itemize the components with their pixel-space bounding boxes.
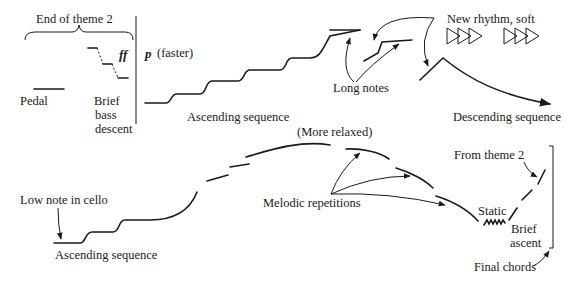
- brief-ascent-line1: Brief: [511, 222, 538, 236]
- ascending-label-top: Ascending sequence: [187, 110, 290, 124]
- final-chords-label: Final chords: [474, 260, 536, 274]
- brief-ascent-line2: ascent: [510, 236, 542, 250]
- fragmented-line: [207, 144, 330, 181]
- long-notes-group: Long notes: [330, 30, 412, 95]
- bass-descent-line3: descent: [95, 122, 133, 136]
- dynamic-p: p: [144, 46, 152, 61]
- new-rhythm-group: New rhythm, soft: [374, 12, 539, 66]
- melodic-repetitions-group: Melodic repetitions: [263, 149, 478, 221]
- from-theme-label: From theme 2: [454, 148, 524, 162]
- bass-descent-line2: bass: [95, 108, 117, 122]
- long-notes-label: Long notes: [333, 81, 389, 95]
- ascending-sequence-line-top: [145, 30, 360, 103]
- bass-descent-line1: Brief: [94, 94, 121, 108]
- triangle-rhythm-icon: [447, 28, 539, 44]
- static-zigzag: [484, 220, 505, 225]
- descending-label: Descending sequence: [453, 110, 561, 124]
- ascending-label-bottom: Ascending sequence: [55, 248, 158, 262]
- end-of-theme-section: End of theme 2 Pedal ff Brief bass desce…: [20, 12, 133, 136]
- form-diagram: End of theme 2 Pedal ff Brief bass desce…: [0, 0, 565, 283]
- end-of-theme-label: End of theme 2: [36, 12, 113, 26]
- dynamic-ff: ff: [119, 47, 129, 62]
- final-chords-bracket: [549, 146, 553, 248]
- tempo-label: (faster): [157, 46, 193, 60]
- melodic-repetitions-label: Melodic repetitions: [263, 196, 361, 210]
- brace: [25, 25, 133, 40]
- ending-group: Static Brief ascent From theme 2 Final c…: [454, 146, 553, 274]
- low-note-arrow: [58, 208, 61, 239]
- static-label: Static: [478, 204, 507, 218]
- low-note-label: Low note in cello: [20, 193, 108, 207]
- new-rhythm-label: New rhythm, soft: [447, 12, 535, 26]
- more-relaxed-label: (More relaxed): [297, 125, 372, 139]
- descending-sequence-line: [420, 58, 550, 104]
- pedal-label: Pedal: [20, 94, 48, 108]
